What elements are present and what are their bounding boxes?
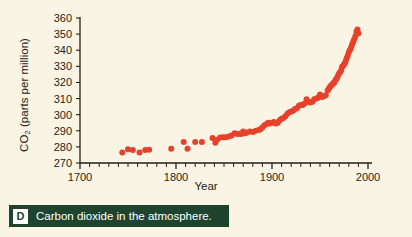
y-tick-label: 360	[42, 12, 72, 24]
y-axis-label: CO2 (parts per million)	[18, 15, 32, 175]
y-tick-label: 290	[42, 125, 72, 137]
data-point	[185, 146, 191, 152]
y-tick-label: 330	[42, 60, 72, 72]
x-tick-label: 1700	[68, 171, 92, 183]
plot-area: CO2 (parts per million) Year 27028029030…	[0, 0, 412, 196]
y-tick-label: 340	[42, 44, 72, 56]
y-tick-label: 310	[42, 93, 72, 105]
data-point	[181, 139, 187, 145]
data-point	[199, 139, 205, 145]
caption-bar: D Carbon dioxide in the atmosphere.	[9, 205, 229, 227]
x-tick-label: 1800	[164, 171, 188, 183]
data-point	[355, 30, 361, 36]
data-point	[130, 147, 136, 153]
x-tick-label: 1900	[260, 171, 284, 183]
data-point	[146, 147, 152, 153]
y-axis-label-rest: (parts per million)	[18, 38, 30, 130]
y-tick-label: 300	[42, 109, 72, 121]
caption-text: Carbon dioxide in the atmosphere.	[36, 210, 212, 222]
data-point	[168, 146, 174, 152]
data-point	[137, 150, 143, 156]
caption-badge: D	[13, 209, 28, 224]
data-point	[192, 139, 198, 145]
x-axis-label: Year	[0, 180, 412, 192]
y-tick-label: 270	[42, 157, 72, 169]
y-tick-label: 350	[42, 28, 72, 40]
y-tick-label: 320	[42, 76, 72, 88]
figure-co2-atmosphere: CO2 (parts per million) Year 27028029030…	[0, 0, 412, 237]
y-axis-label-main: CO	[18, 135, 30, 152]
data-point	[119, 150, 125, 156]
data-points-group	[119, 26, 361, 155]
x-tick-label: 2000	[356, 171, 380, 183]
y-axis-label-subscript: 2	[23, 130, 32, 134]
y-tick-label: 280	[42, 141, 72, 153]
